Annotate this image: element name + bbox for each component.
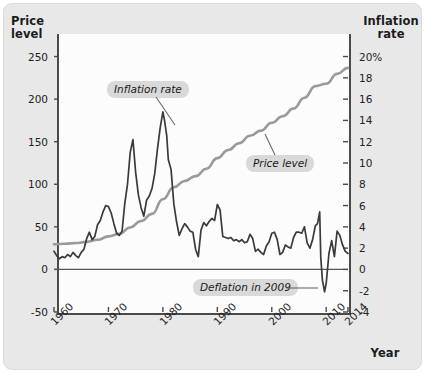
right-tick-2: 2 <box>359 242 399 254</box>
chart-panel: Price level Inflation rate Year -5005010… <box>3 3 422 370</box>
right-tick-0: 0 <box>359 263 399 275</box>
left-tick-200: 200 <box>8 93 48 105</box>
left-tick-250: 250 <box>8 51 48 63</box>
right-tick-10: 10 <box>359 157 399 169</box>
left-axis-title-line1: Price <box>11 15 57 28</box>
left-tick-0: 0 <box>8 263 48 275</box>
right-axis-title: Inflation rate <box>359 15 423 40</box>
left-tick-50: 50 <box>8 221 48 233</box>
right-tick-16: 16 <box>359 93 399 105</box>
right-axis-title-line1: Inflation <box>359 15 423 28</box>
left-tick-100: 100 <box>8 178 48 190</box>
right-axis-title-line2: rate <box>359 28 423 41</box>
left-tick--50: -50 <box>8 306 48 318</box>
left-tick-150: 150 <box>8 136 48 148</box>
callout-deflation-2009: Deflation in 2009 <box>193 279 298 296</box>
callout-inflation-rate: Inflation rate <box>107 81 189 98</box>
right-tick-6: 6 <box>359 200 399 212</box>
right-tick--2: -2 <box>359 285 399 297</box>
right-tick-8: 8 <box>359 178 399 190</box>
right-tick-12: 12 <box>359 136 399 148</box>
left-axis-title-line2: level <box>11 28 57 41</box>
x-axis-title: Year <box>355 347 415 360</box>
right-tick-20pct: 20% <box>359 51 399 63</box>
right-tick-4: 4 <box>359 221 399 233</box>
callout-price-level: Price level <box>246 155 314 172</box>
plot-area <box>57 34 351 315</box>
right-tick-14: 14 <box>359 114 399 126</box>
right-tick-18: 18 <box>359 72 399 84</box>
left-axis-title: Price level <box>11 15 57 40</box>
